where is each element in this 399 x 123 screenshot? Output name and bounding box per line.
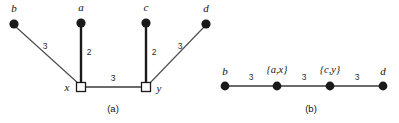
node-x-panel-a[interactable] [77,83,86,92]
edge-weight-a-x: 2 [87,47,92,57]
edge-weight-x-y: 3 [111,73,116,83]
node-label-cy-panel-b: {c,y} [320,64,341,75]
panel-a: b a c d x y 3 2 2 3 3 (a) [9,1,210,114]
node-d-panel-a[interactable] [201,19,210,28]
panel-b: b {a,x} {c,y} d 3 3 3 (b) [221,64,388,114]
node-label-d-panel-a: d [203,2,209,14]
edge-weight-ax-cy: 3 [302,72,307,82]
node-label-x-panel-a: x [64,81,70,93]
edge-weight-b-x: 3 [43,41,48,51]
node-label-ax-panel-b: {a,x} [267,64,289,75]
node-label-b-panel-b: b [222,65,228,77]
node-y-panel-a[interactable] [142,83,151,92]
node-label-a-panel-a: a [78,1,84,13]
node-c-panel-a[interactable] [141,18,150,27]
figure-container: b a c d x y 3 2 2 3 3 (a) [0,0,399,123]
node-label-c-panel-a: c [144,1,149,13]
node-label-d-panel-b: d [380,65,386,77]
graph-figure-svg: b a c d x y 3 2 2 3 3 (a) [0,0,399,123]
caption-panel-b: (b) [305,103,317,114]
edge-weight-c-y: 2 [152,47,157,57]
edge-weight-d-y: 3 [178,41,183,51]
edge-weight-b-ax: 3 [249,72,254,82]
node-ax-panel-b[interactable] [273,82,282,91]
node-label-y-panel-a: y [156,82,162,94]
edge-d-y [149,27,204,84]
edge-b-x [16,27,79,84]
node-cy-panel-b[interactable] [326,82,335,91]
edge-weight-cy-d: 3 [355,72,360,82]
node-b-panel-b[interactable] [221,82,230,91]
node-a-panel-a[interactable] [76,18,85,27]
node-b-panel-a[interactable] [9,19,18,28]
node-label-b-panel-a: b [11,2,17,14]
node-d-panel-b[interactable] [379,82,388,91]
caption-panel-a: (a) [107,103,119,114]
